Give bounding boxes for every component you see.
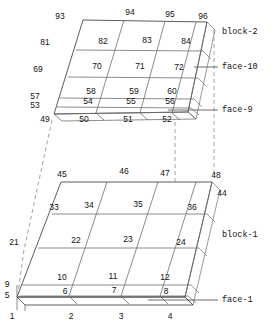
node-label: 1 [10, 311, 15, 321]
node-label: 69 [33, 64, 43, 74]
diagram-canvas: 93 94 95 96 81 69 57 53 49 50 51 52 82 8… [0, 0, 274, 327]
element-label: 33 [49, 202, 59, 212]
block-2-element-labels: 82 83 84 70 71 72 58 59 60 54 55 56 [83, 35, 191, 106]
element-label: 12 [160, 272, 170, 282]
element-label: 60 [167, 86, 177, 96]
node-label: 48 [211, 170, 221, 180]
node-label: 47 [160, 168, 170, 178]
element-label: 6 [63, 286, 68, 296]
element-label: 35 [133, 199, 143, 209]
element-label: 83 [142, 35, 152, 45]
block-2-annotation: block-2 [222, 27, 258, 37]
element-label: 34 [84, 200, 94, 210]
element-label: 58 [86, 86, 96, 96]
node-label: 45 [57, 169, 67, 179]
element-label: 23 [123, 234, 133, 244]
block-1-annotation: block-1 [222, 230, 258, 240]
node-label: 46 [119, 166, 129, 176]
node-label: 96 [198, 11, 208, 21]
element-label: 59 [129, 86, 139, 96]
element-label: 72 [174, 62, 184, 72]
node-label: 4 [168, 311, 173, 321]
element-label: 36 [187, 202, 197, 212]
element-label: 8 [164, 286, 169, 296]
node-label: 51 [123, 114, 133, 124]
node-label: 9 [5, 279, 10, 289]
node-label: 2 [69, 311, 74, 321]
node-label: 50 [79, 114, 89, 124]
element-label: 84 [181, 36, 191, 46]
element-label: 82 [98, 36, 108, 46]
element-label: 24 [176, 237, 186, 247]
element-label: 22 [71, 235, 81, 245]
element-label: 71 [135, 61, 145, 71]
element-label: 55 [126, 96, 136, 106]
node-label: 94 [125, 7, 135, 17]
node-label: 93 [55, 11, 65, 21]
node-label: 95 [165, 9, 175, 19]
element-label: 54 [83, 96, 93, 106]
face-9-annotation: face-9 [222, 105, 253, 115]
leader-lines [148, 67, 218, 300]
node-label: 3 [119, 311, 124, 321]
face-1-annotation: face-1 [222, 295, 253, 305]
element-label: 10 [57, 272, 67, 282]
block-connector-dashed-lines [18, 30, 214, 293]
element-label: 56 [165, 96, 175, 106]
node-label: 52 [162, 114, 172, 124]
element-label: 11 [109, 271, 118, 281]
node-label: 81 [40, 37, 50, 47]
mesh-diagram-svg: 93 94 95 96 81 69 57 53 49 50 51 52 82 8… [0, 0, 274, 327]
node-label: 44 [217, 188, 227, 198]
node-label: 53 [30, 100, 40, 110]
face-10-annotation: face-10 [222, 62, 258, 72]
node-label: 21 [9, 237, 19, 247]
element-label: 70 [92, 61, 102, 71]
node-label: 49 [40, 114, 50, 124]
annotations: block-2 face-10 face-9 block-1 face-1 [222, 27, 258, 305]
element-label: 7 [112, 285, 117, 295]
node-label: 5 [5, 290, 10, 300]
